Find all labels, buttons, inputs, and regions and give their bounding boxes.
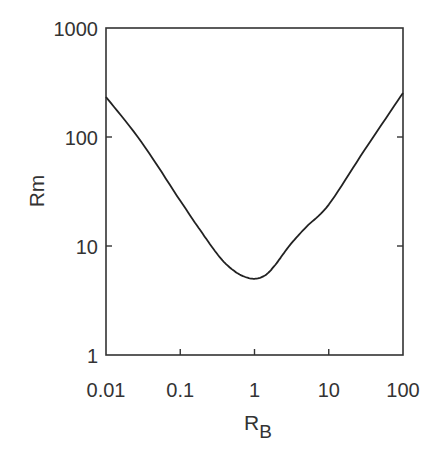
x-tick-label: 10 bbox=[318, 379, 340, 401]
y-tick-label: 100 bbox=[65, 127, 98, 149]
x-tick-label: 100 bbox=[386, 379, 419, 401]
x-tick-label: 0.01 bbox=[87, 379, 126, 401]
y-tick-label: 1 bbox=[87, 345, 98, 367]
x-tick-label: 1 bbox=[249, 379, 260, 401]
y-tick-label: 1000 bbox=[54, 18, 99, 40]
x-axis-label-main: R bbox=[244, 411, 259, 434]
chart: 0.010.11101001101001000 Rm RB bbox=[0, 0, 444, 475]
y-axis-label: Rm bbox=[25, 175, 48, 208]
x-tick-label: 0.1 bbox=[166, 379, 194, 401]
y-tick-label: 10 bbox=[76, 236, 98, 258]
plot-frame bbox=[106, 28, 403, 355]
axis-ticks bbox=[106, 137, 403, 355]
x-axis-label: RB bbox=[244, 411, 272, 442]
x-axis-label-subscript: B bbox=[259, 421, 272, 442]
tick-labels: 0.010.11101001101001000 bbox=[54, 18, 420, 401]
rm-curve bbox=[106, 93, 403, 279]
